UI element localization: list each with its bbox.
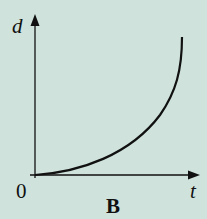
distance-time-graph: d t 0 B <box>0 0 207 219</box>
y-axis-label: d <box>12 14 23 38</box>
x-axis-label: t <box>190 179 197 203</box>
origin-label: 0 <box>16 179 27 203</box>
curve <box>35 37 182 175</box>
caption: B <box>106 194 120 218</box>
y-axis-arrow-icon <box>31 14 40 26</box>
